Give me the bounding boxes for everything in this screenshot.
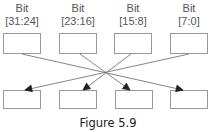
arrow-0-to-3 [22, 54, 183, 90]
destination-box-1 [60, 91, 97, 109]
source-box-1 [60, 34, 97, 54]
destination-box-3 [171, 91, 208, 109]
destination-box-2 [116, 91, 153, 109]
source-box-3 [171, 34, 208, 54]
figure-caption: Figure 5.9 [0, 116, 210, 130]
destination-box-0 [4, 91, 41, 109]
arrow-3-to-0 [25, 54, 189, 90]
source-box-0 [4, 34, 41, 54]
source-box-2 [115, 34, 152, 54]
byte-swap-diagram [0, 0, 210, 132]
